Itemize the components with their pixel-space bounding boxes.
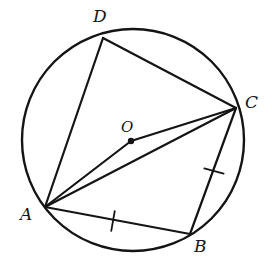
center-label-o: O xyxy=(121,120,133,135)
center-point-dot-icon xyxy=(128,138,134,144)
vertex-label-d: D xyxy=(93,8,107,25)
vertex-label-a: A xyxy=(20,206,32,223)
vertex-label-b: B xyxy=(194,238,207,255)
vertex-label-c: C xyxy=(245,94,258,111)
chord-DC xyxy=(103,38,236,108)
geometry-canvas xyxy=(0,0,272,265)
geometry-figure: A B C D O xyxy=(0,0,272,265)
